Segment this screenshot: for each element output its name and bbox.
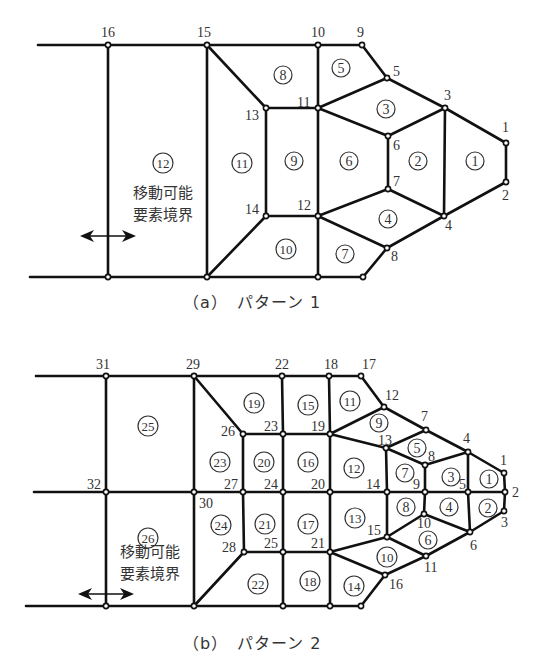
- element-number: 1: [472, 154, 479, 169]
- mesh-node: [501, 508, 506, 513]
- element-number: 11: [236, 156, 249, 171]
- mesh-node: [326, 373, 331, 378]
- caption-pattern-1: （a） パターン 1: [183, 289, 321, 313]
- mesh-node: [204, 42, 209, 47]
- node-number-label: 6: [393, 138, 400, 153]
- mesh-edge: [444, 108, 445, 216]
- node-number-label: 22: [275, 357, 289, 372]
- mesh-node: [263, 105, 268, 110]
- element-number: 14: [348, 579, 362, 594]
- mesh-node: [382, 572, 387, 577]
- node-number-label: 16: [101, 25, 115, 40]
- movable-boundary-label: 移動可能: [120, 543, 180, 561]
- node-number-label: 12: [297, 198, 311, 213]
- mesh-node: [105, 42, 110, 47]
- mesh-node: [385, 186, 390, 191]
- element-number: 3: [448, 470, 455, 485]
- mesh-node: [280, 489, 285, 494]
- node-number-label: 14: [245, 202, 259, 217]
- element-number: 17: [302, 517, 316, 532]
- mesh-node: [315, 105, 320, 110]
- mesh-node: [501, 470, 506, 475]
- element-number: 11: [344, 394, 357, 409]
- mesh-node: [327, 549, 332, 554]
- element-number: 15: [302, 398, 315, 413]
- node-number-label: 7: [421, 409, 428, 424]
- node-number-label: 6: [470, 538, 477, 553]
- element-number: 16: [302, 455, 316, 470]
- mesh-pattern-1: 12345678910111213141516123456789101112移動…: [30, 25, 509, 280]
- finite-element-mesh-diagram: 12345678910111213141516123456789101112移動…: [0, 0, 544, 670]
- mesh-node: [358, 603, 363, 608]
- mesh-edge: [243, 492, 244, 552]
- node-number-label: 8: [391, 249, 398, 264]
- mesh-node: [241, 549, 246, 554]
- mesh-edge: [194, 376, 243, 434]
- mesh-node: [423, 553, 428, 558]
- node-number-label: 18: [324, 357, 338, 372]
- node-number-label: 1: [500, 453, 507, 468]
- mesh-node: [327, 603, 332, 608]
- element-number: 2: [415, 154, 422, 169]
- node-number-label: 10: [311, 25, 325, 40]
- mesh-edge: [387, 216, 444, 248]
- mesh-node: [467, 529, 472, 534]
- element-number: 7: [342, 247, 349, 262]
- node-number-label: 9: [413, 477, 420, 492]
- element-number: 25: [142, 419, 155, 434]
- node-number-label: 25: [264, 536, 278, 551]
- mesh-node: [442, 105, 447, 110]
- mesh-node: [315, 274, 320, 279]
- movable-boundary-label: 要素境界: [120, 565, 180, 583]
- node-number-label: 12: [385, 388, 399, 403]
- node-number-label: 21: [311, 536, 325, 551]
- mesh-node: [103, 489, 108, 494]
- mesh-node: [465, 449, 470, 454]
- mesh-node: [103, 373, 108, 378]
- mesh-node: [384, 245, 389, 250]
- element-number: 9: [291, 154, 298, 169]
- mesh-node: [384, 489, 389, 494]
- node-number-label: 26: [221, 424, 235, 439]
- node-number-label: 11: [424, 560, 437, 575]
- node-number-label: 15: [367, 523, 381, 538]
- mesh-edge: [426, 532, 470, 556]
- mesh-node: [384, 534, 389, 539]
- mesh-node: [423, 427, 428, 432]
- node-number-label: 3: [444, 88, 451, 103]
- mesh-edge: [444, 182, 506, 216]
- mesh-node: [422, 489, 427, 494]
- node-number-label: 17: [362, 357, 376, 372]
- mesh-node: [381, 404, 386, 409]
- node-number-label: 13: [245, 108, 259, 123]
- node-number-label: 32: [87, 477, 101, 492]
- mesh-edge: [388, 108, 445, 136]
- mesh-node: [280, 549, 285, 554]
- node-number-label: 28: [222, 540, 236, 555]
- element-number: 21: [259, 517, 272, 532]
- mesh-edge: [318, 189, 388, 216]
- node-number-label: 11: [297, 95, 310, 110]
- element-number: 23: [214, 455, 227, 470]
- node-number-label: 13: [378, 433, 392, 448]
- mesh-node: [240, 431, 245, 436]
- mesh-edge: [329, 376, 330, 434]
- node-number-label: 19: [311, 419, 325, 434]
- mesh-node: [191, 603, 196, 608]
- mesh-edge: [445, 108, 506, 143]
- mesh-node: [279, 373, 284, 378]
- element-number: 7: [402, 466, 409, 481]
- mesh-edge: [330, 537, 387, 552]
- mesh-node: [503, 140, 508, 145]
- mesh-node: [385, 133, 390, 138]
- node-number-label: 9: [357, 25, 364, 40]
- node-number-label: 4: [445, 218, 452, 233]
- mesh-edge: [362, 45, 387, 78]
- node-number-label: 14: [366, 477, 380, 492]
- mesh-node: [263, 213, 268, 218]
- element-number: 1: [486, 472, 493, 487]
- node-number-label: 10: [417, 516, 431, 531]
- mesh-node: [422, 462, 427, 467]
- node-number-label: 20: [311, 477, 325, 492]
- node-number-label: 24: [264, 477, 278, 492]
